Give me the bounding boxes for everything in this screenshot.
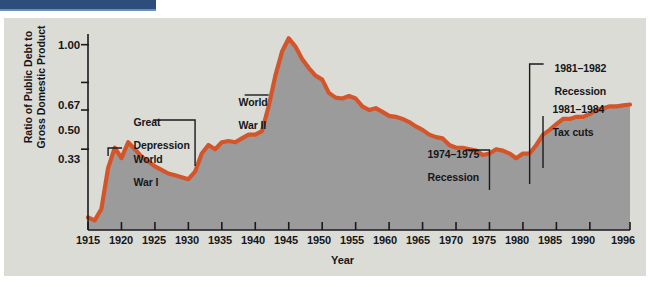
page-root: 1.00 0.67 0.50 0.33 Ratio of Public Debt…: [0, 0, 650, 287]
y-axis-title-line1: Ratio of Public Debt to: [22, 31, 34, 144]
annotation-tax-cuts-1981-1984: 1981–1984 Tax cuts: [530, 92, 604, 151]
x-tick-label-1990: 1990: [563, 234, 603, 246]
y-axis-title-line2: Gross Domestic Product: [35, 25, 47, 148]
y-axis-title-text: Ratio of Public Debt toGross Domestic Pr…: [22, 25, 48, 148]
annotation-great-depression-line2: Depression: [134, 139, 190, 151]
y-axis-title: Ratio of Public Debt toGross Domestic Pr…: [24, 12, 46, 162]
annotation-great-depression-line1: Great: [134, 116, 161, 128]
annotation-tax-cuts-1981-1984-line1: 1981–1984: [553, 103, 605, 115]
header-bar-underline: [0, 9, 156, 11]
annotation-world-war-i-line2: War I: [134, 176, 159, 188]
x-tick-label-1996: 1996: [603, 234, 643, 246]
chart-figure: 1.00 0.67 0.50 0.33 Ratio of Public Debt…: [4, 18, 646, 276]
header-bar: [0, 0, 156, 9]
x-axis-title: Year: [331, 254, 354, 266]
annotation-tax-cuts-1981-1984-line2: Tax cuts: [553, 126, 594, 138]
annotation-recession-1974-1975: 1974–1975 Recession: [405, 137, 479, 196]
annotation-world-war-ii: World War II: [216, 85, 268, 144]
chart-plot-area: 1.00 0.67 0.50 0.33 Ratio of Public Debt…: [4, 18, 646, 276]
annotation-recession-1974-1975-line2: Recession: [428, 171, 480, 183]
annotation-recession-1981-1982-line1: 1981–1982: [555, 62, 607, 74]
annotation-recession-1974-1975-line1: 1974–1975: [428, 148, 480, 160]
annotation-world-war-ii-line1: World: [239, 96, 268, 108]
annotation-world-war-ii-line2: War II: [239, 119, 267, 131]
annotation-great-depression: Great Depression: [111, 105, 190, 164]
